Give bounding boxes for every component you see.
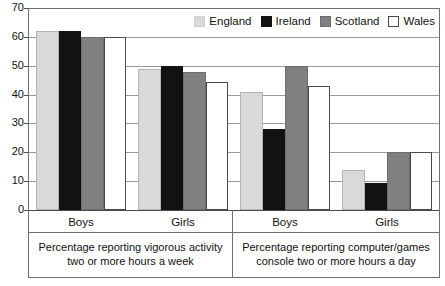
bar-england	[240, 92, 263, 210]
bar-england	[138, 69, 161, 210]
bar-group	[240, 8, 330, 210]
bar-scotland	[285, 66, 308, 210]
panel-caption-left-line1: Percentage reporting vigorous activity	[29, 240, 232, 254]
category-label: Boys	[36, 216, 126, 228]
category-label: Girls	[138, 216, 228, 228]
bar-ireland	[59, 31, 82, 210]
bar-ireland	[263, 129, 286, 210]
panel-caption-left-line2: two or more hours a week	[29, 254, 232, 268]
bar-wales	[308, 86, 331, 210]
bar-group	[138, 8, 228, 210]
bars-layer	[28, 8, 440, 210]
bar-england	[342, 170, 365, 210]
y-tick-label-50: 50	[0, 60, 24, 71]
bar-england	[36, 31, 59, 210]
panel-caption-left: Percentage reporting vigorous activity t…	[29, 240, 232, 268]
bar-ireland	[365, 183, 388, 210]
bar-wales	[104, 37, 127, 210]
category-label: Boys	[240, 216, 330, 228]
bar-group	[36, 8, 126, 210]
y-tick-label-30: 30	[0, 117, 24, 128]
panel-caption-right: Percentage reporting computer/games cons…	[233, 240, 439, 268]
bar-wales	[206, 82, 229, 210]
bar-ireland	[161, 66, 184, 210]
bar-chart: England Ireland Scotland Wales 010203040…	[0, 0, 445, 286]
y-tick-mark-0	[24, 210, 28, 211]
y-tick-label-40: 40	[0, 89, 24, 100]
bar-scotland	[81, 37, 104, 210]
y-tick-label-70: 70	[0, 2, 24, 13]
bar-scotland	[183, 72, 206, 211]
panel-caption-right-line2: console two or more hours a day	[233, 254, 439, 268]
y-tick-label-20: 20	[0, 146, 24, 157]
panel-caption-right-line1: Percentage reporting computer/games	[233, 240, 439, 254]
y-tick-label-60: 60	[0, 31, 24, 42]
caption-separator	[28, 232, 440, 233]
bar-wales	[410, 152, 433, 210]
y-tick-label-10: 10	[0, 175, 24, 186]
gridline-0	[28, 210, 440, 211]
bar-group	[342, 8, 432, 210]
bar-scotland	[387, 152, 410, 210]
y-tick-label-0: 0	[0, 204, 24, 215]
category-label: Girls	[342, 216, 432, 228]
